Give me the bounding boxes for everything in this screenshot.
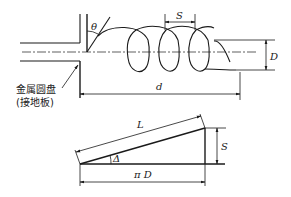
helix-antenna: θ S D	[16, 10, 278, 108]
base-label: π D	[133, 169, 152, 180]
unrolled-turn-triangle: L Δ S π D	[75, 114, 228, 186]
diameter-dimension: D	[214, 40, 278, 70]
height-label: S	[221, 141, 228, 152]
feed-line	[20, 14, 80, 61]
hypotenuse-label: L	[136, 119, 144, 130]
ground-disk-callout: 金属圆盘 (接地板)	[16, 65, 78, 108]
theta-angle: θ	[87, 17, 110, 52]
angle-label: Δ	[112, 153, 120, 164]
helical-antenna-diagram: θ S D	[0, 0, 291, 197]
disk-label-line1: 金属圆盘	[16, 83, 56, 95]
base-dimension: π D	[80, 164, 205, 186]
helix-coils	[98, 26, 236, 71]
height-dimension: S	[205, 128, 228, 164]
length-label: d	[156, 81, 162, 92]
disk-label-line2: (接地板)	[16, 96, 54, 108]
diameter-label: D	[269, 51, 278, 62]
theta-label: θ	[91, 21, 97, 32]
pitch-label: S	[176, 10, 183, 21]
hypotenuse-dimension: L	[75, 114, 205, 164]
ground-plane-disk	[80, 14, 87, 98]
length-dimension: d	[80, 72, 240, 100]
triangle-hypotenuse	[80, 128, 205, 164]
